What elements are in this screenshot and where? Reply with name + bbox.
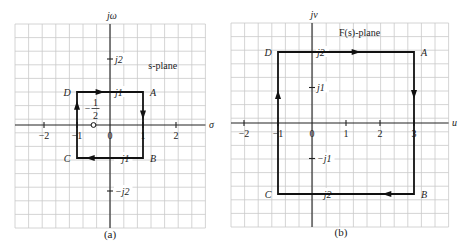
vertex-label-C: C (64, 153, 71, 164)
imag-tick-label: −j1 (317, 153, 332, 164)
vertex-label-D: D (62, 87, 71, 98)
direction-arrow-icon (96, 89, 105, 95)
vertex-label-B: B (421, 189, 427, 200)
panel-caption: (b) (335, 226, 348, 239)
imaginary-axis-label: jω (105, 10, 117, 21)
direction-arrow-icon (275, 90, 281, 99)
vertex-label-B: B (150, 153, 156, 164)
real-tick-label: 0 (310, 128, 315, 139)
fraction-numerator: 1 (93, 97, 98, 108)
conformal-mapping-figure: σjω−2−1012j2j1−j1−j2s-planeDABC−12(a)ujv… (0, 0, 472, 249)
real-axis-label: u (452, 117, 457, 128)
plane-label: F(s)-plane (339, 27, 381, 39)
figure-stage: σjω−2−1012j2j1−j1−j2s-planeDABC−12(a)ujv… (0, 0, 472, 249)
imag-tick-label: −j2 (115, 186, 130, 197)
real-tick-label: −2 (39, 130, 50, 141)
fraction-denominator: 2 (93, 110, 98, 121)
real-tick-label: 0 (108, 130, 113, 141)
direction-arrow-icon (382, 191, 391, 197)
vertex-label-A: A (149, 87, 157, 98)
imag-tick-label: j1 (315, 82, 325, 93)
real-tick-label: 1 (344, 128, 349, 139)
vertex-label-D: D (263, 47, 272, 58)
fraction-sign: − (85, 103, 91, 114)
imag-tick-label: j2 (113, 54, 123, 65)
real-tick-label: −2 (239, 128, 250, 139)
panel-a: σjω−2−1012j2j1−j1−j2s-planeDABC−12(a) (15, 10, 215, 241)
real-axis-label: σ (209, 119, 215, 130)
zero-marker-icon (91, 123, 96, 128)
panel-caption: (a) (104, 228, 117, 241)
panel-b: ujv−2−10123j2j1−j1−j2F(s)-planeDABC(b) (231, 9, 457, 239)
direction-arrow-icon (411, 90, 417, 99)
direction-arrow-icon (140, 111, 146, 120)
plane-label: s-plane (148, 60, 177, 71)
real-tick-label: 2 (378, 128, 383, 139)
vertex-label-A: A (420, 47, 428, 58)
imaginary-axis-label: jv (308, 9, 318, 20)
real-tick-label: 2 (174, 130, 179, 141)
vertex-label-C: C (265, 189, 272, 200)
